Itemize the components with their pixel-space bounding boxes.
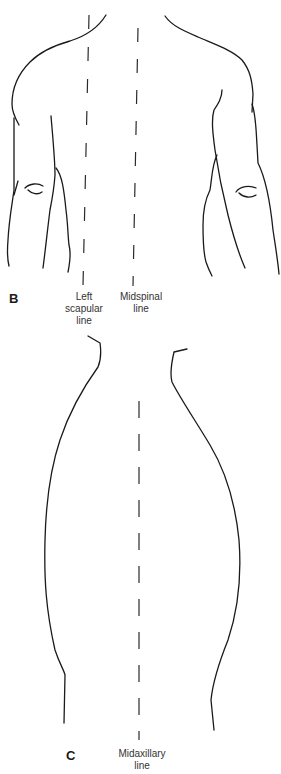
right-outer-arm-outline [252,104,279,274]
panel-label-c: C [66,748,75,763]
left-scapular-line [83,15,89,286]
left-outer-arm-outline [8,118,14,266]
midspinal-line-label: Midspinal line [115,291,167,315]
left-elbow-crease [25,184,43,188]
lateral-right-outline [171,349,240,730]
left-shoulder-outline [12,15,106,125]
panel-label-b: B [9,291,18,306]
right-inner-arm-outline [212,90,245,268]
right-elbow-crease-lower [239,193,256,197]
left-torso-side-outline [56,168,70,272]
right-shoulder-outline [165,16,253,112]
right-elbow-crease [236,186,256,192]
midspinal-line [133,28,138,286]
left-scapular-line-label: Left scapular line [60,291,108,327]
anatomical-diagram [0,0,281,774]
lateral-torso-figure [45,336,240,740]
posterior-torso-figure [8,15,279,286]
left-inner-arm-outline [43,116,55,268]
left-elbow-crease-lower [28,190,42,194]
right-torso-side-outline [203,155,217,276]
midaxillary-line-label: Midaxillary line [112,748,172,772]
lateral-left-outline [45,336,101,723]
